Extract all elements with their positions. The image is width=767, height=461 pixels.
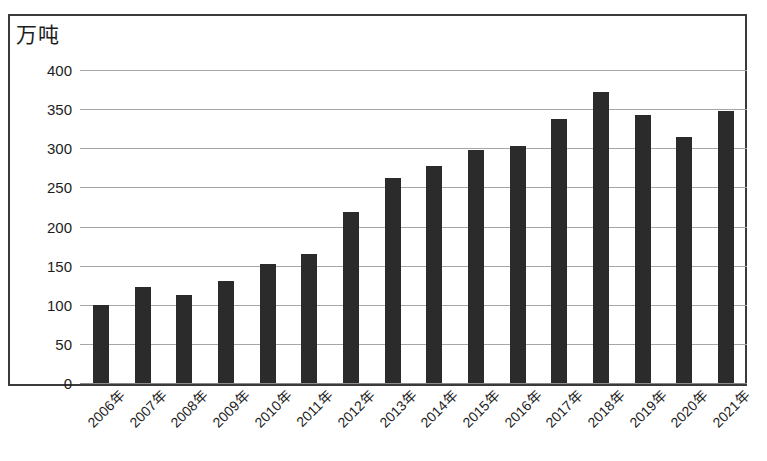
y-axis-tick-label: 300	[10, 141, 72, 156]
x-axis-tick-label: 2019年	[627, 388, 669, 430]
y-axis-tick-label: 100	[10, 297, 72, 312]
y-axis-unit-label: 万吨	[16, 24, 60, 45]
x-axis-tick-labels: 2006年2007年2008年2009年2010年2011年2012年2013年…	[80, 386, 747, 461]
bar	[510, 146, 526, 383]
x-axis-tick-label: 2008年	[168, 388, 210, 430]
y-axis-tick-label: 400	[10, 63, 72, 78]
bar	[93, 305, 109, 383]
y-axis-tick-label: 150	[10, 258, 72, 273]
y-axis-tick-label: 250	[10, 180, 72, 195]
y-axis-tick-labels: 400350300250200150100500	[8, 70, 72, 383]
x-axis-tick-label: 2014年	[418, 388, 460, 430]
gridline	[80, 383, 747, 384]
bar	[343, 212, 359, 383]
bar	[260, 264, 276, 383]
bar	[635, 115, 651, 383]
bar	[218, 281, 234, 383]
x-axis-tick-label: 2016年	[502, 388, 544, 430]
bar	[135, 287, 151, 383]
x-axis-tick-label: 2010年	[252, 388, 294, 430]
x-axis-tick-label: 2007年	[127, 388, 169, 430]
bar-chart-figure: 万吨 400350300250200150100500 2006年2007年20…	[0, 0, 767, 461]
bar	[385, 178, 401, 383]
bar	[676, 137, 692, 383]
y-axis-tick-label: 350	[10, 102, 72, 117]
bar	[426, 166, 442, 383]
bars-group	[80, 70, 747, 383]
x-axis-tick-label: 2009年	[210, 388, 252, 430]
y-axis-tick-label: 200	[10, 219, 72, 234]
x-axis-tick-label: 2021年	[710, 388, 752, 430]
y-axis-tick-label: 0	[10, 376, 72, 391]
x-axis-tick-label: 2017年	[543, 388, 585, 430]
x-axis-tick-label: 2020年	[669, 388, 711, 430]
y-axis-tick-label: 50	[10, 336, 72, 351]
bar	[468, 150, 484, 383]
bar	[593, 92, 609, 383]
x-axis-tick-label: 2012年	[335, 388, 377, 430]
x-axis-tick-label: 2018年	[585, 388, 627, 430]
bar	[301, 254, 317, 383]
bar	[718, 111, 734, 383]
bar	[551, 119, 567, 383]
bar	[176, 295, 192, 383]
x-axis-tick-label: 2013年	[377, 388, 419, 430]
x-axis-tick-label: 2011年	[294, 388, 335, 429]
x-axis-tick-label: 2015年	[460, 388, 502, 430]
plot-area	[80, 70, 747, 383]
x-axis-tick-label: 2006年	[85, 388, 127, 430]
